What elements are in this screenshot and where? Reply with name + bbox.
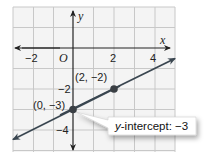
- point-2-neg2: [110, 85, 118, 93]
- point-label-2-neg2: (2, −2): [75, 71, 107, 83]
- callout-rest: -intercept: −3: [121, 120, 188, 132]
- x-axis-label: x: [159, 33, 166, 47]
- coordinate-plane: y x −2 O 2 4 −2 −4 y-intercept: −3 (0, −…: [0, 0, 210, 161]
- tick-y-neg2: −2: [58, 83, 71, 95]
- tick-x-neg2: −2: [25, 52, 38, 64]
- tick-y-neg4: −4: [56, 124, 69, 136]
- point-label-0-neg3: (0, −3): [33, 99, 65, 111]
- y-intercept-callout-text: y-intercept: −3: [114, 120, 188, 132]
- y-axis-label: y: [77, 9, 84, 23]
- tick-x-4: 4: [150, 52, 156, 64]
- origin-label: O: [59, 51, 68, 65]
- tick-x-2: 2: [110, 52, 116, 64]
- point-0-neg3: [69, 106, 77, 114]
